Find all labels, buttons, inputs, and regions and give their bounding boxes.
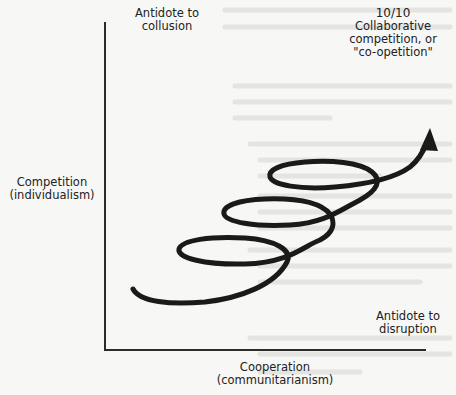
spiral-arrow	[0, 0, 456, 395]
arrowhead-icon	[420, 128, 438, 151]
